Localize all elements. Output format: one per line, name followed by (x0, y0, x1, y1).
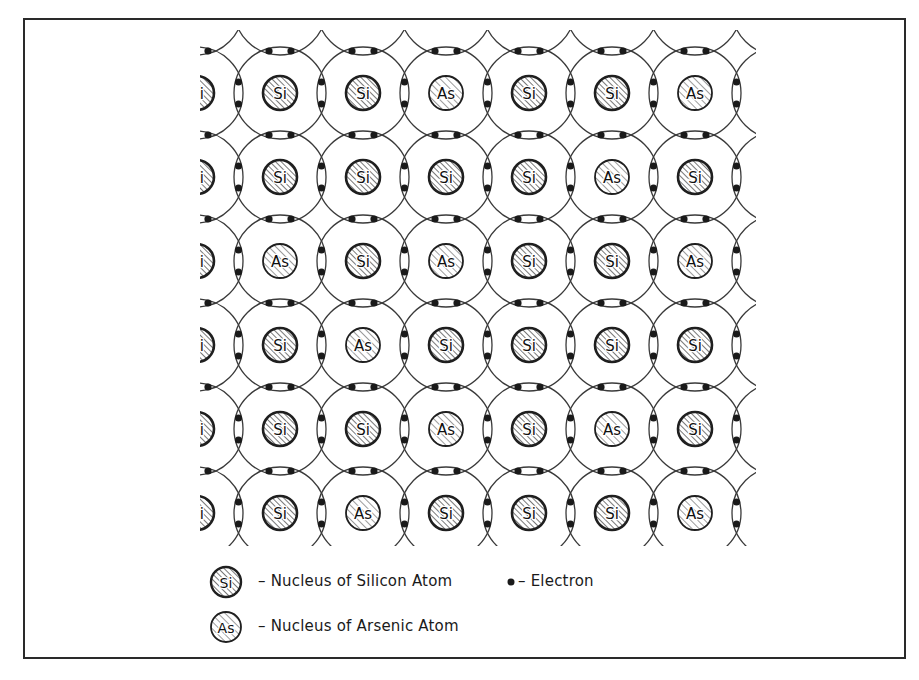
silicon-nucleus: Si (512, 244, 546, 278)
electron (265, 131, 272, 138)
electron (401, 162, 408, 169)
svg-text:Si: Si (190, 253, 204, 271)
electron (597, 131, 604, 138)
electron (650, 162, 657, 169)
svg-text:Si: Si (273, 85, 287, 103)
electron (484, 100, 491, 107)
legend-silicon-icon: Si (211, 567, 241, 597)
electron (318, 414, 325, 421)
electron (287, 299, 294, 306)
silicon-nucleus: Si (512, 496, 546, 530)
electron (680, 551, 687, 558)
electron (370, 383, 377, 390)
electron (763, 551, 770, 558)
electron (370, 467, 377, 474)
electron (763, 215, 770, 222)
electron (318, 0, 325, 2)
svg-text:As: As (437, 421, 455, 439)
electron (370, 215, 377, 222)
orbit-shell (151, 0, 243, 55)
silicon-nucleus: Si (678, 328, 712, 362)
electron (650, 582, 657, 589)
legend-arsenic-icon: As (211, 612, 241, 642)
svg-text:Si: Si (771, 505, 785, 523)
silicon-nucleus: Si (761, 160, 795, 194)
electron (370, 635, 377, 642)
electron (235, 0, 242, 2)
electron (567, 0, 574, 2)
electron (484, 246, 491, 253)
silicon-nucleus: Si (180, 496, 214, 530)
electron (597, 383, 604, 390)
electron (567, 78, 574, 85)
svg-text:As: As (686, 505, 704, 523)
orbit-shell (151, 131, 243, 223)
electron (431, 551, 438, 558)
electron (287, 467, 294, 474)
arsenic-nucleus: As (429, 412, 463, 446)
electron (318, 604, 325, 611)
orbit-shell (151, 215, 243, 307)
svg-text:Si: Si (190, 169, 204, 187)
electron (484, 330, 491, 337)
silicon-nucleus: Si (761, 244, 795, 278)
electron (536, 635, 543, 642)
electron (235, 498, 242, 505)
svg-text:Si: Si (771, 337, 785, 355)
electron (619, 215, 626, 222)
svg-text:Si: Si (273, 505, 287, 523)
electron (733, 16, 740, 23)
orbit-shell (732, 47, 824, 139)
orbit-shell (151, 299, 243, 391)
electron (619, 635, 626, 642)
svg-text:Si: Si (273, 337, 287, 355)
electron (514, 47, 521, 54)
arsenic-nucleus: As (429, 244, 463, 278)
silicon-nucleus: Si (263, 496, 297, 530)
electron (182, 467, 189, 474)
legend-electron-icon (508, 579, 515, 586)
orbit-shell (732, 0, 824, 55)
electron (514, 299, 521, 306)
electron (318, 436, 325, 443)
silicon-nucleus: Si (180, 328, 214, 362)
electron (287, 47, 294, 54)
electron (816, 100, 823, 107)
electron (235, 162, 242, 169)
electron (235, 520, 242, 527)
silicon-nucleus: Si (595, 244, 629, 278)
electron (484, 162, 491, 169)
silicon-nucleus: Si (346, 244, 380, 278)
svg-text:Si: Si (190, 421, 204, 439)
silicon-nucleus: Si (263, 412, 297, 446)
svg-text:Si: Si (220, 575, 233, 591)
electron (733, 0, 740, 2)
orbit-shell (649, 551, 741, 643)
electron (401, 498, 408, 505)
orbit-shell (151, 383, 243, 475)
electron (484, 268, 491, 275)
electron (514, 215, 521, 222)
electron (235, 100, 242, 107)
electron (235, 352, 242, 359)
svg-text:Si: Si (356, 253, 370, 271)
electron (763, 467, 770, 474)
electron (401, 0, 408, 2)
electron (370, 299, 377, 306)
electron (204, 299, 211, 306)
electron (318, 268, 325, 275)
electron (536, 131, 543, 138)
electron (235, 414, 242, 421)
electron (453, 467, 460, 474)
svg-text:Si: Si (439, 169, 453, 187)
electron (680, 383, 687, 390)
svg-text:As: As (686, 253, 704, 271)
electron (733, 604, 740, 611)
electron (318, 184, 325, 191)
orbit-shell (732, 467, 824, 559)
crystal-lattice-diagram: SiSiSiAsSiSiAsSiSiSiSiSiSiAsSiSiSiAsSiAs… (0, 0, 919, 680)
electron (785, 299, 792, 306)
electron (235, 78, 242, 85)
electron (348, 635, 355, 642)
electron (204, 635, 211, 642)
